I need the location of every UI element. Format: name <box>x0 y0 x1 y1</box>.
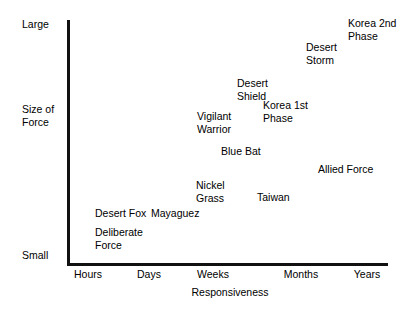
y-axis-title: Size of Force <box>22 103 54 129</box>
data-label-korea-2nd-phase: Korea 2nd Phase <box>348 17 396 43</box>
data-label-desert-fox: Desert Fox <box>95 207 146 220</box>
x-tick-label-days: Days <box>119 268 179 281</box>
x-axis-title: Responsiveness <box>158 286 302 299</box>
y-axis-low-label: Small <box>22 249 48 262</box>
y-axis-line <box>67 20 70 265</box>
x-tick-label-months: Months <box>271 268 331 281</box>
data-label-korea-1st-phase: Korea 1st Phase <box>263 99 308 125</box>
data-label-vigilant-warrior: Vigilant Warrior <box>197 110 231 136</box>
scatter-chart: Large Size of Force Small Hours Days Wee… <box>0 0 414 317</box>
data-label-taiwan: Taiwan <box>257 191 290 204</box>
x-tick-label-hours: Hours <box>58 268 118 281</box>
data-label-deliberate-force: Deliberate Force <box>95 226 143 252</box>
data-label-mayaguez: Mayaguez <box>151 207 199 220</box>
data-label-allied-force: Allied Force <box>318 163 373 176</box>
x-tick-label-weeks: Weeks <box>183 268 243 281</box>
data-label-blue-bat: Blue Bat <box>221 145 261 158</box>
data-label-desert-storm: Desert Storm <box>306 41 337 67</box>
x-axis-line <box>67 263 388 266</box>
x-tick-label-years: Years <box>337 268 397 281</box>
y-axis-high-label: Large <box>22 18 49 31</box>
data-label-nickel-grass: Nickel Grass <box>196 179 225 205</box>
